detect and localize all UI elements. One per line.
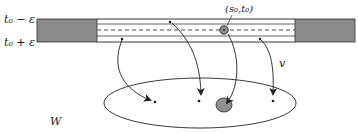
bottom-time-label: t₀ + ε (4, 36, 35, 49)
strip-point-bottom-left (121, 38, 124, 41)
strip (37, 19, 355, 42)
s0-t0-label: (s₀,t₀) (225, 3, 253, 14)
arrow-1 (118, 40, 150, 100)
w-point-3 (272, 100, 275, 103)
region-w-ellipse (104, 78, 296, 128)
top-time-label: t₀ − ε (4, 13, 35, 26)
strip-point-bottom-right (259, 38, 262, 41)
w-point-1 (154, 101, 157, 104)
right-block (295, 19, 355, 42)
arrow-3 (227, 34, 237, 103)
w-disk (216, 98, 232, 112)
strip-point-top (169, 21, 172, 24)
region-w-label: W (50, 115, 63, 128)
left-block (37, 19, 97, 42)
vector-v-label: v (279, 57, 286, 70)
arrow-2 (172, 23, 201, 94)
w-point-2 (198, 100, 201, 103)
diagram-canvas: t₀ − ε t₀ + ε (s₀,t₀) W v (0, 0, 358, 133)
